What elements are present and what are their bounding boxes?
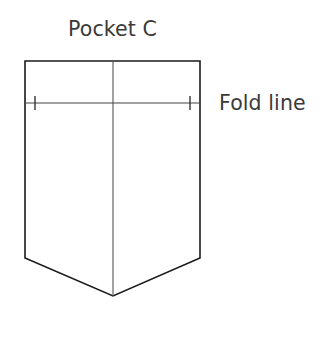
pattern-diagram-canvas: Pocket C Fold line — [0, 0, 329, 337]
fold-line-label: Fold line — [219, 91, 306, 115]
pocket-pattern-drawing — [0, 0, 329, 337]
page-title: Pocket C — [0, 17, 225, 41]
